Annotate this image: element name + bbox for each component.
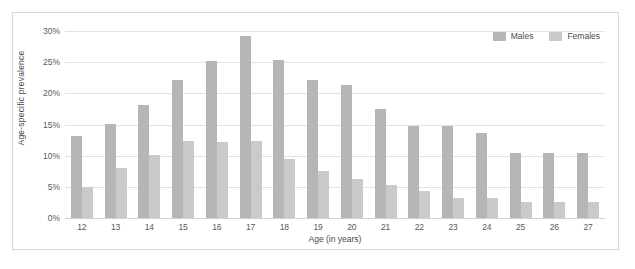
bar-females-19[interactable] [318,171,329,218]
x-tick-label: 26 [550,222,559,232]
x-tick-label: 20 [347,222,356,232]
legend-label-males: Males [511,31,534,41]
bar-group: 12 [65,31,99,218]
bar-males-17[interactable] [240,36,251,218]
bar-group: 20 [335,31,369,218]
x-tick-label: 15 [178,222,187,232]
y-tick-label: 10% [43,151,60,161]
bar-females-16[interactable] [217,142,228,218]
y-tick-label: 20% [43,88,60,98]
bar-group: 17 [234,31,268,218]
x-tick-label: 18 [280,222,289,232]
x-tick-label: 19 [313,222,322,232]
bar-group: 19 [301,31,335,218]
legend-swatch-males-icon [493,32,506,41]
bar-females-26[interactable] [554,202,565,218]
y-axis-title: Age-specific prevalence [16,0,26,218]
bar-males-16[interactable] [206,61,217,218]
bar-group: 14 [133,31,167,218]
y-tick-label: 15% [43,120,60,130]
bar-group: 22 [403,31,437,218]
x-tick-label: 16 [212,222,221,232]
bar-males-21[interactable] [375,109,386,218]
chart-legend: Males Females [493,31,600,41]
bar-group: 25 [504,31,538,218]
bar-group: 27 [571,31,605,218]
bar-group: 26 [538,31,572,218]
x-tick-label: 22 [415,222,424,232]
bar-females-22[interactable] [419,191,430,218]
bar-males-24[interactable] [476,133,487,218]
bar-males-13[interactable] [105,124,116,218]
bar-females-14[interactable] [149,155,160,218]
bar-females-20[interactable] [352,179,363,218]
x-tick-label: 21 [381,222,390,232]
bar-females-18[interactable] [284,159,295,218]
bar-females-13[interactable] [116,168,127,218]
bar-males-22[interactable] [408,126,419,218]
y-tick-label: 30% [43,26,60,36]
x-tick-label: 23 [448,222,457,232]
bar-females-21[interactable] [386,185,397,218]
x-tick-label: 13 [111,222,120,232]
x-tick-label: 14 [145,222,154,232]
bar-groups: 12131415161718192021222324252627 [65,31,605,218]
gridline-0% [65,218,605,219]
bar-group: 18 [268,31,302,218]
bar-group: 15 [166,31,200,218]
plot-area: 0%5%10%15%20%25%30% 12131415161718192021… [65,31,605,218]
legend-entry-males: Males [493,31,534,41]
y-tick-label: 5% [48,182,60,192]
legend-entry-females: Females [549,31,600,41]
bar-females-17[interactable] [251,141,262,218]
x-axis-title: Age (in years) [65,234,605,244]
bar-females-12[interactable] [82,187,93,218]
bar-females-23[interactable] [453,198,464,218]
bar-males-18[interactable] [273,60,284,218]
legend-swatch-females-icon [549,32,562,41]
bar-males-14[interactable] [138,105,149,218]
chart-figure-frame: Age-specific prevalence 0%5%10%15%20%25%… [12,12,619,250]
bar-females-25[interactable] [521,202,532,218]
bar-group: 24 [470,31,504,218]
bar-males-25[interactable] [510,153,521,218]
bar-group: 16 [200,31,234,218]
y-tick-label: 25% [43,57,60,67]
x-tick-label: 27 [583,222,592,232]
bar-males-15[interactable] [172,80,183,218]
x-tick-label: 12 [77,222,86,232]
bar-group: 13 [99,31,133,218]
x-tick-label: 25 [516,222,525,232]
bar-group: 21 [369,31,403,218]
bar-females-27[interactable] [588,202,599,218]
bar-males-19[interactable] [307,80,318,218]
bar-group: 23 [436,31,470,218]
y-tick-label: 0% [48,213,60,223]
legend-label-females: Females [567,31,600,41]
x-tick-label: 24 [482,222,491,232]
bar-males-23[interactable] [442,126,453,218]
bar-males-26[interactable] [543,153,554,218]
bar-females-15[interactable] [183,141,194,218]
bar-females-24[interactable] [487,198,498,218]
bar-males-12[interactable] [71,136,82,218]
bar-males-20[interactable] [341,85,352,218]
bar-males-27[interactable] [577,153,588,218]
x-tick-label: 17 [246,222,255,232]
